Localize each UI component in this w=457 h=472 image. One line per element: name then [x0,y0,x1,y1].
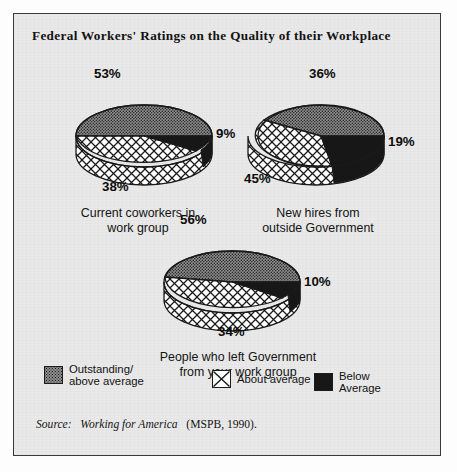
pie1-label-outstanding: 53% [94,66,121,81]
pie-chart-current-coworkers: 53% 9% 38% Current coworkers in work gro… [64,66,224,201]
dots-swatch-icon [44,366,63,384]
pie2-label-below: 19% [388,134,415,149]
source-note: Source: Working for America (MSPB, 1990)… [36,418,257,431]
figure-panel: Federal Workers' Ratings on the Quality … [13,13,441,456]
figure-title: Federal Workers' Ratings on the Quality … [32,28,422,44]
source-title: Working for America [80,418,177,431]
pie3-slice-outstanding [165,251,300,282]
solid-black-swatch-icon [314,373,333,391]
legend: Outstanding/ above average About average… [44,361,414,395]
legend-label-outstanding: Outstanding/ above average [69,363,144,388]
pie2-label-about: 45% [244,171,271,186]
legend-label-below-average: Below Average [339,370,414,395]
pie3-label-about: 34% [218,324,245,339]
pie1-label-about: 38% [102,179,129,194]
pie1-slice-outstanding [76,105,212,136]
pie3-label-below: 10% [304,274,331,289]
pie-chart-new-hires: 36% 19% 45% New hires from outside Gover… [236,66,406,201]
legend-label-about-average: About average [237,373,311,385]
pie3-label-outstanding: 56% [180,212,207,227]
legend-item-below-average: Below Average [314,370,414,395]
legend-item-outstanding: Outstanding/ above average [44,363,144,388]
pie1-label-below: 9% [216,126,235,141]
pie2-label-outstanding: 36% [309,66,336,81]
source-label: Source: [36,418,72,431]
pie-chart-people-who-left: 56% 10% 34% People who left Government f… [144,212,334,352]
legend-item-about-average: About average [212,370,311,388]
cross-hatch-swatch-icon [212,370,231,388]
pie-svg-current-coworkers [64,88,224,188]
source-citation: (MSPB, 1990). [186,418,257,431]
